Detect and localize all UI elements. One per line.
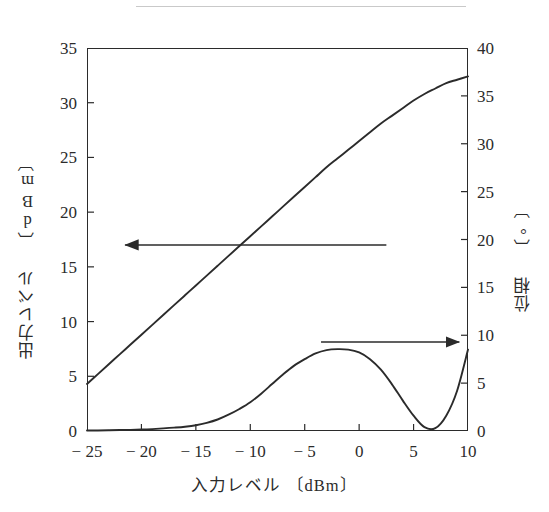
y2-tick-label: 0 xyxy=(477,423,486,440)
x-tick-label: − 15 xyxy=(180,443,211,460)
x-tick-label: − 10 xyxy=(235,443,266,460)
y2-tick-label: 15 xyxy=(477,279,494,296)
y2-tick-label: 25 xyxy=(477,183,494,200)
y-tick-label: 25 xyxy=(60,149,77,166)
y-axis-title: 出力レベル 〔dBm〕 xyxy=(16,153,40,359)
y-tick-label: 30 xyxy=(60,94,77,111)
y-tick-label: 10 xyxy=(60,313,77,330)
y2-tick-label: 10 xyxy=(477,327,494,344)
page-header-rule xyxy=(136,6,466,7)
y-tick-label: 15 xyxy=(60,258,77,275)
plot-area xyxy=(87,48,468,431)
y2-tick-label: 40 xyxy=(477,40,494,57)
x-tick-label: − 5 xyxy=(294,443,316,460)
x-axis-title: 入力レベル 〔dBm〕 xyxy=(191,472,357,496)
y-tick-label: 35 xyxy=(60,40,77,57)
y2-tick-label: 20 xyxy=(477,231,494,248)
x-tick-label: − 20 xyxy=(126,443,157,460)
y-tick-label: 0 xyxy=(69,423,78,440)
y-tick-label: 20 xyxy=(60,204,77,221)
y2-axis-title: 位相 〔°〕 xyxy=(512,200,536,312)
y2-tick-label: 30 xyxy=(477,135,494,152)
x-tick-label: 10 xyxy=(460,443,477,460)
x-tick-label: 5 xyxy=(409,443,418,460)
x-tick-label: − 25 xyxy=(72,443,103,460)
figure: 051015202530350510152025303540− 25− 20− … xyxy=(0,0,549,512)
y-tick-label: 5 xyxy=(69,368,78,385)
x-tick-label: 0 xyxy=(355,443,364,460)
y2-tick-label: 35 xyxy=(477,87,494,104)
y2-tick-label: 5 xyxy=(477,375,486,392)
